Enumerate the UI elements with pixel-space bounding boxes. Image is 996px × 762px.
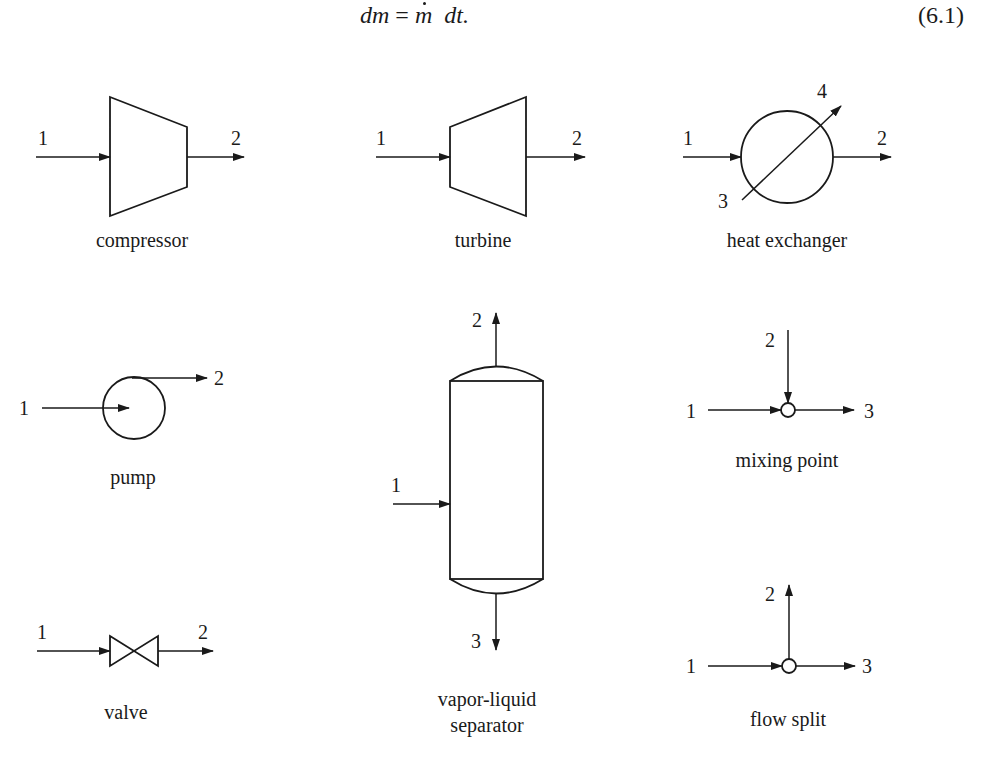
- pump-port-out: 2: [214, 367, 224, 389]
- valve-port-out: 2: [198, 621, 208, 643]
- flow-split-port-in: 1: [686, 655, 696, 677]
- turbine-icon: [450, 97, 526, 216]
- pump-port-in: 1: [19, 397, 29, 419]
- valve-port-in: 1: [37, 621, 47, 643]
- heat-exchanger-port-utility-out: 4: [817, 80, 827, 102]
- separator-bottom-cap: [450, 579, 543, 594]
- mixing-point: 1 2 3 mixing point: [686, 329, 874, 472]
- compressor: 1 2 compressor: [36, 97, 244, 252]
- flow-split-port-out1: 2: [765, 583, 775, 605]
- vapor-liquid-separator: 1 2 3 vapor-liquid separator: [391, 309, 543, 737]
- compressor-icon: [110, 97, 187, 216]
- heat-exchanger-port-in: 1: [683, 127, 693, 149]
- flow-split-port-out2: 3: [862, 655, 872, 677]
- separator-label-line2: separator: [450, 714, 524, 737]
- heat-exchanger-utility-arrow: [742, 106, 841, 200]
- compressor-port-out: 2: [231, 127, 241, 149]
- valve-label: valve: [104, 701, 147, 723]
- separator-top-cap: [450, 367, 543, 382]
- valve-icon: [110, 636, 158, 666]
- mixing-point-port-in2: 2: [765, 329, 775, 351]
- separator-label-line1: vapor-liquid: [438, 688, 536, 711]
- flow-split: 1 2 3 flow split: [686, 583, 872, 731]
- flow-split-icon: [782, 659, 796, 673]
- mixing-point-icon: [781, 403, 795, 417]
- separator-port-vapor-out: 2: [472, 309, 482, 331]
- mixing-point-label: mixing point: [736, 449, 839, 472]
- mixing-point-port-out: 3: [864, 400, 874, 422]
- pump: 1 2 pump: [19, 367, 224, 489]
- mixing-point-port-in1: 1: [686, 400, 696, 422]
- heat-exchanger-port-out: 2: [877, 127, 887, 149]
- turbine: 1 2 turbine: [376, 97, 585, 251]
- flow-split-label: flow split: [750, 708, 827, 731]
- separator-port-in: 1: [391, 474, 401, 496]
- pump-label: pump: [110, 466, 156, 489]
- heat-exchanger-port-utility-in: 3: [718, 190, 728, 212]
- compressor-port-in: 1: [38, 127, 48, 149]
- turbine-port-out: 2: [572, 127, 582, 149]
- separator-port-liquid-out: 3: [471, 630, 481, 652]
- turbine-label: turbine: [455, 229, 512, 251]
- separator-icon: [450, 381, 543, 579]
- process-components-diagram: 1 2 compressor 1 2 turbine 1 2 3 4 heat …: [0, 0, 996, 762]
- heat-exchanger: 1 2 3 4 heat exchanger: [683, 80, 891, 252]
- compressor-label: compressor: [96, 229, 189, 252]
- valve: 1 2 valve: [37, 621, 213, 723]
- heat-exchanger-label: heat exchanger: [727, 229, 848, 252]
- turbine-port-in: 1: [376, 127, 386, 149]
